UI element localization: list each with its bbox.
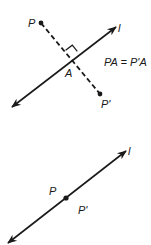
point-p-prime-label-bottom: P' — [78, 204, 88, 216]
point-p-prime-label-top: P' — [101, 98, 111, 110]
point-p-label-top: P — [28, 17, 36, 29]
point-p-label-bottom: P — [49, 185, 57, 197]
point-p-top — [39, 21, 44, 26]
point-p-bottom — [63, 195, 68, 200]
figure-bottom: l P P' — [8, 145, 131, 243]
reflection-diagram: l P P' A PA = P'A l P P' — [0, 0, 151, 245]
right-angle-marker — [66, 45, 78, 51]
point-p-prime-top — [98, 92, 103, 97]
perpendicular-segment — [41, 23, 100, 94]
line-l-label-top: l — [118, 22, 121, 34]
foot-a-label: A — [64, 67, 72, 79]
figure-top: l P P' A PA = P'A — [12, 17, 147, 110]
equation-label: PA = P'A — [104, 56, 147, 68]
line-l-label-bottom: l — [128, 145, 131, 157]
